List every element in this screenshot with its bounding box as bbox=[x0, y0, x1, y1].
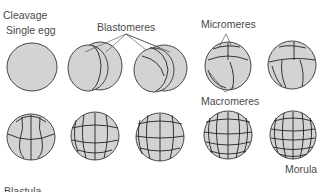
stage-row2-4 bbox=[204, 111, 252, 159]
stage-row2-3 bbox=[136, 113, 184, 161]
morula-cell bbox=[270, 111, 316, 159]
eight-cell-stage bbox=[205, 34, 251, 92]
stage-row2-2 bbox=[71, 112, 119, 160]
cleavage-diagram bbox=[0, 0, 324, 192]
stage-row2-1 bbox=[7, 114, 55, 160]
single-egg-cell bbox=[7, 43, 57, 91]
two-cell-stage bbox=[68, 42, 122, 91]
sixteen-cell-stage bbox=[268, 41, 316, 89]
four-cell-stage bbox=[134, 45, 187, 92]
